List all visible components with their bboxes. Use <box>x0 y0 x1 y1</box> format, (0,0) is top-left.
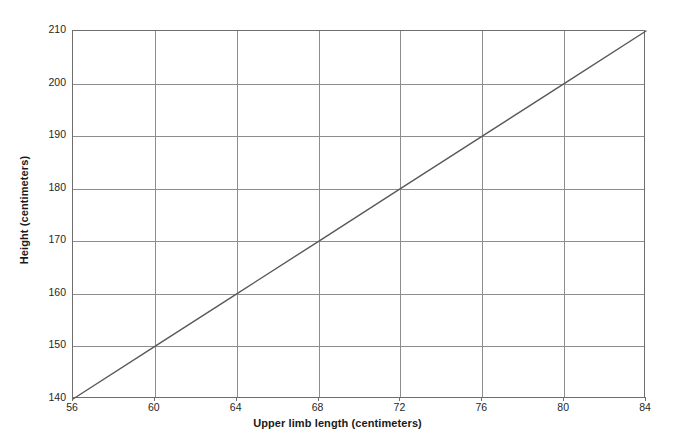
x-axis-tick-labels: 5660646872768084 <box>72 401 645 415</box>
x-tick-label-64: 64 <box>216 401 256 413</box>
chart-figure: 210200190180170160150140 566064687276808… <box>0 0 675 447</box>
x-tick-label-60: 60 <box>134 401 174 413</box>
y-tick-label-210: 210 <box>26 24 66 35</box>
y-tick-label-170: 170 <box>26 234 66 245</box>
x-tick-label-84: 84 <box>625 401 665 413</box>
x-tick-label-80: 80 <box>543 401 583 413</box>
x-tick-label-76: 76 <box>461 401 501 413</box>
x-tick-label-56: 56 <box>52 401 92 413</box>
plot-area <box>72 30 645 398</box>
x-axis-title: Upper limb length (centimeters) <box>0 417 675 429</box>
y-tick-label-180: 180 <box>26 182 66 193</box>
y-tick-label-200: 200 <box>26 77 66 88</box>
series-polyline <box>73 31 646 399</box>
x-tick-label-68: 68 <box>298 401 338 413</box>
y-tick-label-150: 150 <box>26 339 66 350</box>
y-axis-title: Height (centimeters) <box>18 120 30 300</box>
x-tick-label-72: 72 <box>379 401 419 413</box>
data-series-line <box>73 31 646 399</box>
y-tick-label-190: 190 <box>26 129 66 140</box>
y-tick-label-160: 160 <box>26 287 66 298</box>
